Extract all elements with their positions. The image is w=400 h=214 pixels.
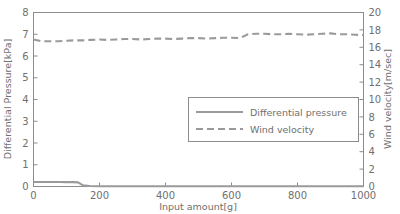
y-axis-left-title: Differential Pressure[kPa] xyxy=(2,39,13,159)
x-axis-tick-label: 600 xyxy=(222,190,241,201)
y-axis-right-tick-label: 12 xyxy=(369,77,382,88)
y-axis-left-tick-labels: 012345678 xyxy=(22,7,28,192)
x-axis-tick-label: 200 xyxy=(90,190,109,201)
y-axis-left-tick-label: 3 xyxy=(22,116,28,127)
y-axis-right-tick-label: 20 xyxy=(369,7,382,18)
x-axis-tick-label: 0 xyxy=(30,190,36,201)
y-axis-right-tick-label: 14 xyxy=(369,59,382,70)
y-axis-right-tick-label: 4 xyxy=(369,146,375,157)
x-axis-tick-label: 400 xyxy=(156,190,175,201)
y-axis-right-tick-label: 2 xyxy=(369,164,375,175)
chart-legend: Differential pressure Wind velocity xyxy=(189,98,359,142)
y-axis-left-tick-label: 4 xyxy=(22,94,28,105)
y-axis-right-tick-label: 6 xyxy=(369,129,375,140)
legend-label-differential-pressure: Differential pressure xyxy=(250,107,347,118)
y-axis-right-tick-label: 10 xyxy=(369,94,382,105)
y-axis-left-tick-label: 0 xyxy=(22,181,28,192)
chart-container: 012345678 02468101214161820 020040060080… xyxy=(0,0,400,214)
x-axis-tick-label: 1000 xyxy=(351,190,376,201)
y-axis-right-tick-label: 8 xyxy=(369,112,375,123)
y-axis-left-tick-label: 5 xyxy=(22,72,28,83)
y-axis-left-tick-label: 1 xyxy=(22,159,28,170)
x-axis-title: Input amount[g] xyxy=(159,201,237,212)
y-axis-left-tick-label: 8 xyxy=(22,7,28,18)
dual-axis-line-chart: 012345678 02468101214161820 020040060080… xyxy=(0,0,400,214)
y-axis-right-tick-label: 18 xyxy=(369,25,382,36)
legend-label-wind-velocity: Wind velocity xyxy=(250,124,314,135)
y-axis-right-title: Wind velocity[m/sec] xyxy=(382,49,393,149)
y-axis-left-tick-label: 7 xyxy=(22,29,28,40)
y-axis-left-tick-label: 6 xyxy=(22,51,28,62)
legend-box xyxy=(189,98,359,142)
y-axis-right-tick-label: 16 xyxy=(369,42,382,53)
y-axis-left-tick-label: 2 xyxy=(22,138,28,149)
x-axis-tick-label: 800 xyxy=(288,190,307,201)
